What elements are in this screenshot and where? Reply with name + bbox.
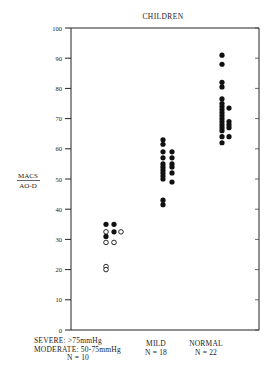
data-point xyxy=(111,229,116,234)
data-point xyxy=(169,179,174,184)
data-point xyxy=(219,140,224,145)
y-tick-label: 90 xyxy=(56,55,63,62)
chart-title: CHILDREN xyxy=(142,12,183,21)
data-point xyxy=(169,164,174,169)
category-mild-n: N = 18 xyxy=(136,349,176,358)
y-axis-ticks: 0102030405060708090100 xyxy=(52,25,259,334)
data-point xyxy=(169,170,174,175)
data-point xyxy=(104,230,109,235)
data-point xyxy=(112,240,117,245)
y-axis-label: MACS AO-D xyxy=(17,172,40,190)
data-point xyxy=(160,149,165,154)
data-point xyxy=(219,84,224,89)
y-tick-label: 20 xyxy=(56,266,63,273)
y-label-denominator: AO-D xyxy=(19,182,37,190)
data-point xyxy=(160,142,165,147)
y-label-numerator: MACS xyxy=(18,172,38,180)
data-point xyxy=(160,137,165,142)
data-point xyxy=(169,155,174,160)
y-tick-label: 10 xyxy=(56,296,63,303)
data-point xyxy=(104,240,109,245)
category-normal-n: N = 22 xyxy=(181,349,231,358)
data-point xyxy=(219,53,224,58)
data-points xyxy=(103,53,231,272)
y-tick-label: 40 xyxy=(56,206,63,213)
category-severe-n: N = 10 xyxy=(34,354,122,363)
data-point xyxy=(226,105,231,110)
data-point xyxy=(160,202,165,207)
y-tick-label: 80 xyxy=(56,85,63,92)
y-tick-label: 50 xyxy=(56,176,63,183)
data-point xyxy=(104,267,109,272)
data-point xyxy=(219,62,224,67)
data-point xyxy=(219,128,224,133)
data-point xyxy=(160,155,165,160)
y-tick-label: 30 xyxy=(56,236,63,243)
data-point xyxy=(103,222,108,227)
category-label-normal: NORMAL N = 22 xyxy=(181,340,231,357)
data-point xyxy=(119,230,124,235)
data-point xyxy=(111,222,116,227)
data-point xyxy=(219,134,224,139)
category-label-mild: MILD N = 18 xyxy=(136,340,176,357)
y-tick-label: 70 xyxy=(56,115,63,122)
data-point xyxy=(226,125,231,130)
data-point xyxy=(226,134,231,139)
y-tick-label: 100 xyxy=(52,25,62,32)
scatter-chart: CHILDREN 0102030405060708090100 MACS AO-… xyxy=(0,0,275,374)
data-point xyxy=(169,149,174,154)
category-label-severe-moderate: SEVERE: >75mmHg MODERATE: 50-75mmHg N = … xyxy=(34,337,122,363)
data-point xyxy=(219,80,224,85)
y-tick-label: 60 xyxy=(56,145,63,152)
y-tick-label: 0 xyxy=(59,327,62,334)
data-point xyxy=(160,198,165,203)
data-point xyxy=(160,176,165,181)
data-point xyxy=(219,96,224,101)
